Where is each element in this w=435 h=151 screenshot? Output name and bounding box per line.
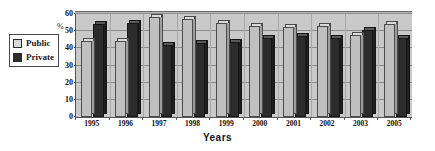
x-axis-tick-mark (344, 117, 345, 120)
bar-group (283, 14, 306, 117)
plot-area (75, 14, 412, 118)
x-axis-tick-mark (310, 117, 311, 120)
bar-side-face (294, 24, 297, 114)
bar-public-1996 (115, 41, 126, 117)
x-axis-tick-mark (377, 117, 378, 120)
bar-public-2003 (350, 35, 361, 117)
bar-group (149, 14, 172, 117)
x-axis-title: Years (0, 132, 435, 143)
bar-front-face (317, 26, 328, 117)
bar-side-face (239, 39, 242, 114)
category-separator (378, 14, 379, 117)
bar-group (317, 14, 340, 117)
legend-label-private: Private (26, 53, 54, 62)
bar-side-face (138, 20, 141, 114)
bar-public-2005 (384, 24, 395, 117)
category-separator (210, 14, 211, 117)
x-axis: 1995199619971998199920002001200220032005 (75, 120, 412, 132)
bar-side-face (104, 21, 107, 114)
legend-item-private: Private (13, 51, 54, 63)
x-axis-tick-mark (209, 117, 210, 120)
bar-group (350, 14, 373, 117)
category-separator (345, 14, 346, 117)
x-axis-tick-mark (109, 117, 110, 120)
bar-public-1997 (149, 17, 160, 117)
category-separator (244, 14, 245, 117)
bar-side-face (328, 23, 331, 114)
bar-front-face (182, 19, 193, 117)
chart-legend: Public Private (9, 34, 59, 67)
x-axis-tick-mark (277, 117, 278, 120)
bar-group (249, 14, 272, 117)
bar-side-face (126, 38, 129, 114)
bar-front-face (283, 27, 294, 117)
bar-side-face (227, 20, 230, 114)
bar-side-face (205, 40, 208, 114)
legend-label-public: Public (26, 39, 51, 48)
bar-front-face (216, 23, 227, 117)
y-axis-tick-label: 0 (57, 113, 73, 121)
category-separator (143, 14, 144, 117)
bar-group (384, 14, 407, 117)
y-axis-tick-label: 60 (57, 10, 73, 18)
category-separator (278, 14, 279, 117)
x-axis-tick-mark (75, 117, 76, 120)
bar-public-1998 (182, 19, 193, 117)
x-axis-tick-label: 2005 (377, 120, 411, 128)
bar-group (115, 14, 138, 117)
bar-side-face (407, 35, 410, 114)
bar-side-face (172, 42, 175, 114)
bar-group (216, 14, 239, 117)
bar-group (182, 14, 205, 117)
x-axis-tick-label: 2003 (344, 120, 378, 128)
x-axis-tick-label: 2002 (310, 120, 344, 128)
y-axis-tick-label: 10 (57, 96, 73, 104)
bar-side-face (92, 38, 95, 114)
x-axis-tick-mark (176, 117, 177, 120)
bar-front-face (350, 35, 361, 117)
bar-side-face (160, 14, 163, 114)
legend-swatch-private-icon (13, 53, 22, 62)
x-axis-tick-label: 1999 (209, 120, 243, 128)
x-axis-tick-label: 1995 (75, 120, 109, 128)
bar-chart-figure: Public Private % 0102030405060 199519961… (0, 0, 435, 151)
category-separator (311, 14, 312, 117)
bar-public-2000 (249, 26, 260, 117)
legend-swatch-public-icon (13, 39, 22, 48)
x-axis-tick-label: 1997 (142, 120, 176, 128)
bar-public-1999 (216, 23, 227, 117)
y-axis: 0102030405060 (57, 14, 73, 118)
bar-side-face (361, 32, 364, 114)
bar-front-face (115, 41, 126, 117)
x-axis-tick-mark (410, 117, 411, 120)
y-axis-tick-label: 50 (57, 27, 73, 35)
bar-side-face (272, 35, 275, 114)
x-axis-tick-mark (142, 117, 143, 120)
bar-public-2001 (283, 27, 294, 117)
bar-front-face (149, 17, 160, 117)
x-axis-tick-label: 2001 (277, 120, 311, 128)
bar-side-face (260, 23, 263, 114)
bar-side-face (373, 27, 376, 114)
bar-side-face (395, 21, 398, 114)
legend-item-public: Public (13, 37, 54, 49)
x-axis-tick-label: 1996 (109, 120, 143, 128)
x-axis-tick-label: 2000 (243, 120, 277, 128)
y-axis-tick-label: 20 (57, 79, 73, 87)
y-axis-tick-label: 40 (57, 44, 73, 52)
bar-group (81, 14, 104, 117)
category-separator (110, 14, 111, 117)
x-axis-tick-label: 1998 (176, 120, 210, 128)
bar-public-1995 (81, 41, 92, 117)
bar-front-face (81, 41, 92, 117)
category-separator (177, 14, 178, 117)
bar-public-2002 (317, 26, 328, 117)
bar-front-face (384, 24, 395, 117)
bar-side-face (306, 33, 309, 114)
x-axis-tick-mark (243, 117, 244, 120)
bar-side-face (193, 16, 196, 114)
bar-front-face (249, 26, 260, 117)
bar-side-face (340, 35, 343, 114)
y-axis-tick-label: 30 (57, 62, 73, 70)
